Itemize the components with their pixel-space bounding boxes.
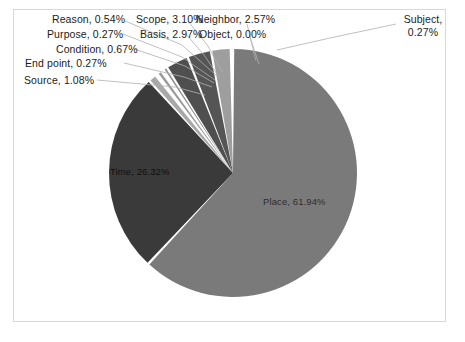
- pie-label-neighbor: Neighbor, 2.57%: [196, 13, 275, 26]
- pie-label-purpose: Purpose, 0.27%: [47, 28, 123, 41]
- pie-label-end-point: End point, 0.27%: [25, 57, 107, 70]
- chart-image: Reason, 0.54% Purpose, 0.27% Condition, …: [0, 0, 465, 342]
- pie-label-object: Object, 0.00%: [199, 28, 266, 41]
- pie-slice-label-place: Place, 61.94%: [263, 196, 326, 207]
- pie-label-condition: Condition, 0.67%: [56, 43, 138, 56]
- pie-label-subject: Subject, 0.27%: [400, 13, 446, 39]
- pie-label-basis: Basis, 2.97%: [140, 28, 202, 41]
- leader-line-subject: [277, 24, 396, 50]
- pie-label-scope: Scope, 3.10%: [136, 13, 203, 26]
- pie-label-reason: Reason, 0.54%: [52, 13, 125, 26]
- pie-label-source: Source, 1.08%: [24, 74, 94, 87]
- pie-slice-label-time: Time, 26.32%: [110, 166, 169, 177]
